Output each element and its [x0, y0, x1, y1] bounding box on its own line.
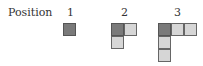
row-label: Position [8, 7, 52, 19]
position-2-label: 2 [121, 7, 128, 19]
position-3-cell-origin [158, 23, 171, 36]
position-3-cell-below-2 [158, 49, 171, 62]
position-2-cell-right [124, 23, 137, 36]
position-3-cell-right-1 [171, 23, 184, 36]
position-2-cell-origin [111, 23, 124, 36]
position-1-cell-origin [63, 23, 76, 36]
position-3-cell-below-1 [158, 36, 171, 49]
position-2-cell-below [111, 36, 124, 49]
position-1-label: 1 [67, 7, 74, 19]
position-3-cell-right-2 [184, 23, 197, 36]
position-3-label: 3 [174, 7, 181, 19]
